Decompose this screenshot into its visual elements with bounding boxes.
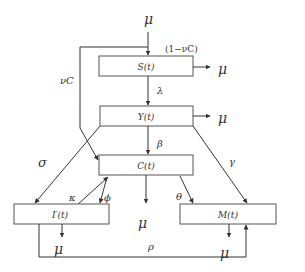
theta-label: θ xyxy=(176,191,182,202)
compartment-s-label: S(t) xyxy=(138,62,155,72)
compartment-c: C(t) xyxy=(99,155,193,175)
gamma-label: γ xyxy=(229,156,235,167)
kappa-label: κ xyxy=(68,192,76,203)
compartment-y: Y(t) xyxy=(100,106,193,126)
compartment-y-label: Y(t) xyxy=(138,112,155,122)
s-mu-label: μ xyxy=(218,61,227,77)
y-mu-label: μ xyxy=(218,110,227,126)
compartment-m-label: M(t) xyxy=(217,210,238,220)
rho-label: ρ xyxy=(147,241,154,252)
compartment-i: I′(t) xyxy=(14,204,109,224)
nuc-label: νC xyxy=(60,75,74,86)
c-mu-label: μ xyxy=(138,215,147,231)
compartment-s: S(t) xyxy=(99,56,193,76)
flow-diagram: μ (1−νC) νC S(t) μ λ Y(t) μ β σ γ C(t) μ… xyxy=(0,0,305,272)
inflow-mu-label: μ xyxy=(144,11,153,27)
one-minus-nuc-label: (1−νC) xyxy=(165,44,198,54)
y-to-m-arrow xyxy=(193,126,247,203)
phi-label: ϕ xyxy=(104,192,111,203)
sigma-label: σ xyxy=(38,155,48,170)
beta-label: β xyxy=(156,138,163,149)
lambda-label: λ xyxy=(156,85,163,96)
compartment-m: M(t) xyxy=(180,204,276,224)
i-mu-label: μ xyxy=(54,241,63,257)
m-mu-label: μ xyxy=(220,245,229,261)
compartment-i-label: I′(t) xyxy=(51,210,69,220)
compartment-c-label: C(t) xyxy=(137,161,155,171)
